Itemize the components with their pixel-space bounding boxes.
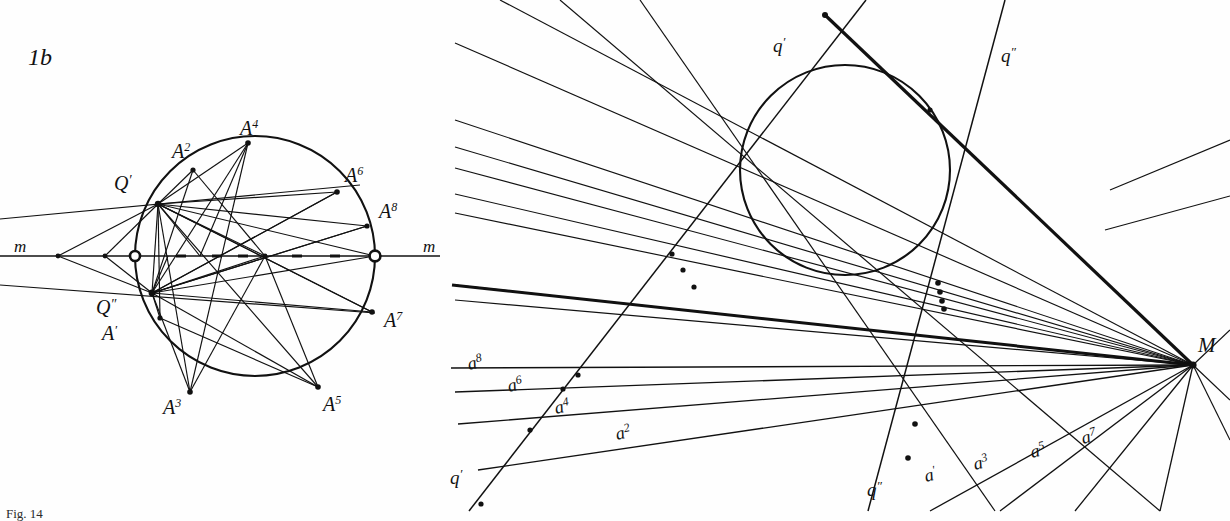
dot-a4-node [527, 427, 532, 432]
dot-axis-2 [103, 254, 108, 259]
open-marker-right [370, 251, 381, 262]
dot-A1 [157, 315, 162, 320]
caption-fragment: Fig. 14 [6, 506, 43, 521]
dot-left-cluster-3 [691, 284, 696, 289]
dot-circle-right [927, 107, 932, 112]
axis-label-left: m [14, 237, 26, 256]
dot-axis-1 [56, 254, 61, 259]
dot-Qprime [155, 201, 161, 207]
axis-label-right: m [423, 237, 435, 256]
drawing-plate: 1b m m Q′ Q″ A′ A2 A3 A4 A5 A6 A7 A8 [0, 0, 1230, 521]
dot-cluster-2 [937, 289, 943, 295]
dot-Qdoubleprime [149, 290, 156, 297]
dot-A2 [190, 167, 195, 172]
paper-background [0, 0, 1230, 521]
dot-q2-node-2 [905, 455, 911, 461]
dot-cluster-3 [939, 298, 945, 304]
plate-canvas: 1b m m Q′ Q″ A′ A2 A3 A4 A5 A6 A7 A8 [0, 0, 1230, 521]
dot-a2-node [478, 501, 483, 506]
dot-cluster-4 [941, 306, 947, 312]
plate-label: 1b [28, 44, 52, 70]
dot-A4 [245, 140, 251, 146]
dot-a6-node [560, 386, 565, 391]
caption-fragment-group: Fig. 14 [6, 506, 43, 521]
dot-a8-node [575, 372, 580, 377]
open-marker-left [130, 251, 140, 261]
dot-left-cluster-1 [669, 251, 674, 256]
dot-q2-node-1 [912, 421, 918, 427]
dot-A6 [334, 189, 340, 195]
dot-apex [822, 12, 828, 18]
dot-A8 [364, 223, 369, 228]
dot-M [1189, 361, 1196, 368]
dot-left-cluster-2 [680, 267, 685, 272]
dot-axis-3 [263, 254, 268, 259]
dot-A5 [315, 384, 321, 390]
label-M: M [1197, 333, 1217, 357]
dot-A7 [369, 309, 375, 315]
dot-A3 [187, 389, 193, 395]
dot-cluster-1 [935, 280, 941, 286]
